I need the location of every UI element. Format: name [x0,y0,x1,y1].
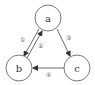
edge-label-2: ② [38,42,43,49]
edge-label-3: ③ [66,34,71,41]
edge-label-1: ① [20,36,25,43]
svg-text:②: ② [38,42,43,49]
node-b: b [6,55,32,81]
svg-text:b: b [16,63,22,74]
node-c: c [64,55,90,81]
svg-text:a: a [45,13,51,24]
graph-diagram: ① ② ③ ④ a b c [0,0,95,85]
svg-text:③: ③ [66,34,71,41]
node-a: a [35,5,61,31]
edge-label-4: ④ [46,71,51,78]
svg-text:④: ④ [46,71,51,78]
svg-text:c: c [74,63,80,74]
svg-text:①: ① [20,36,25,43]
